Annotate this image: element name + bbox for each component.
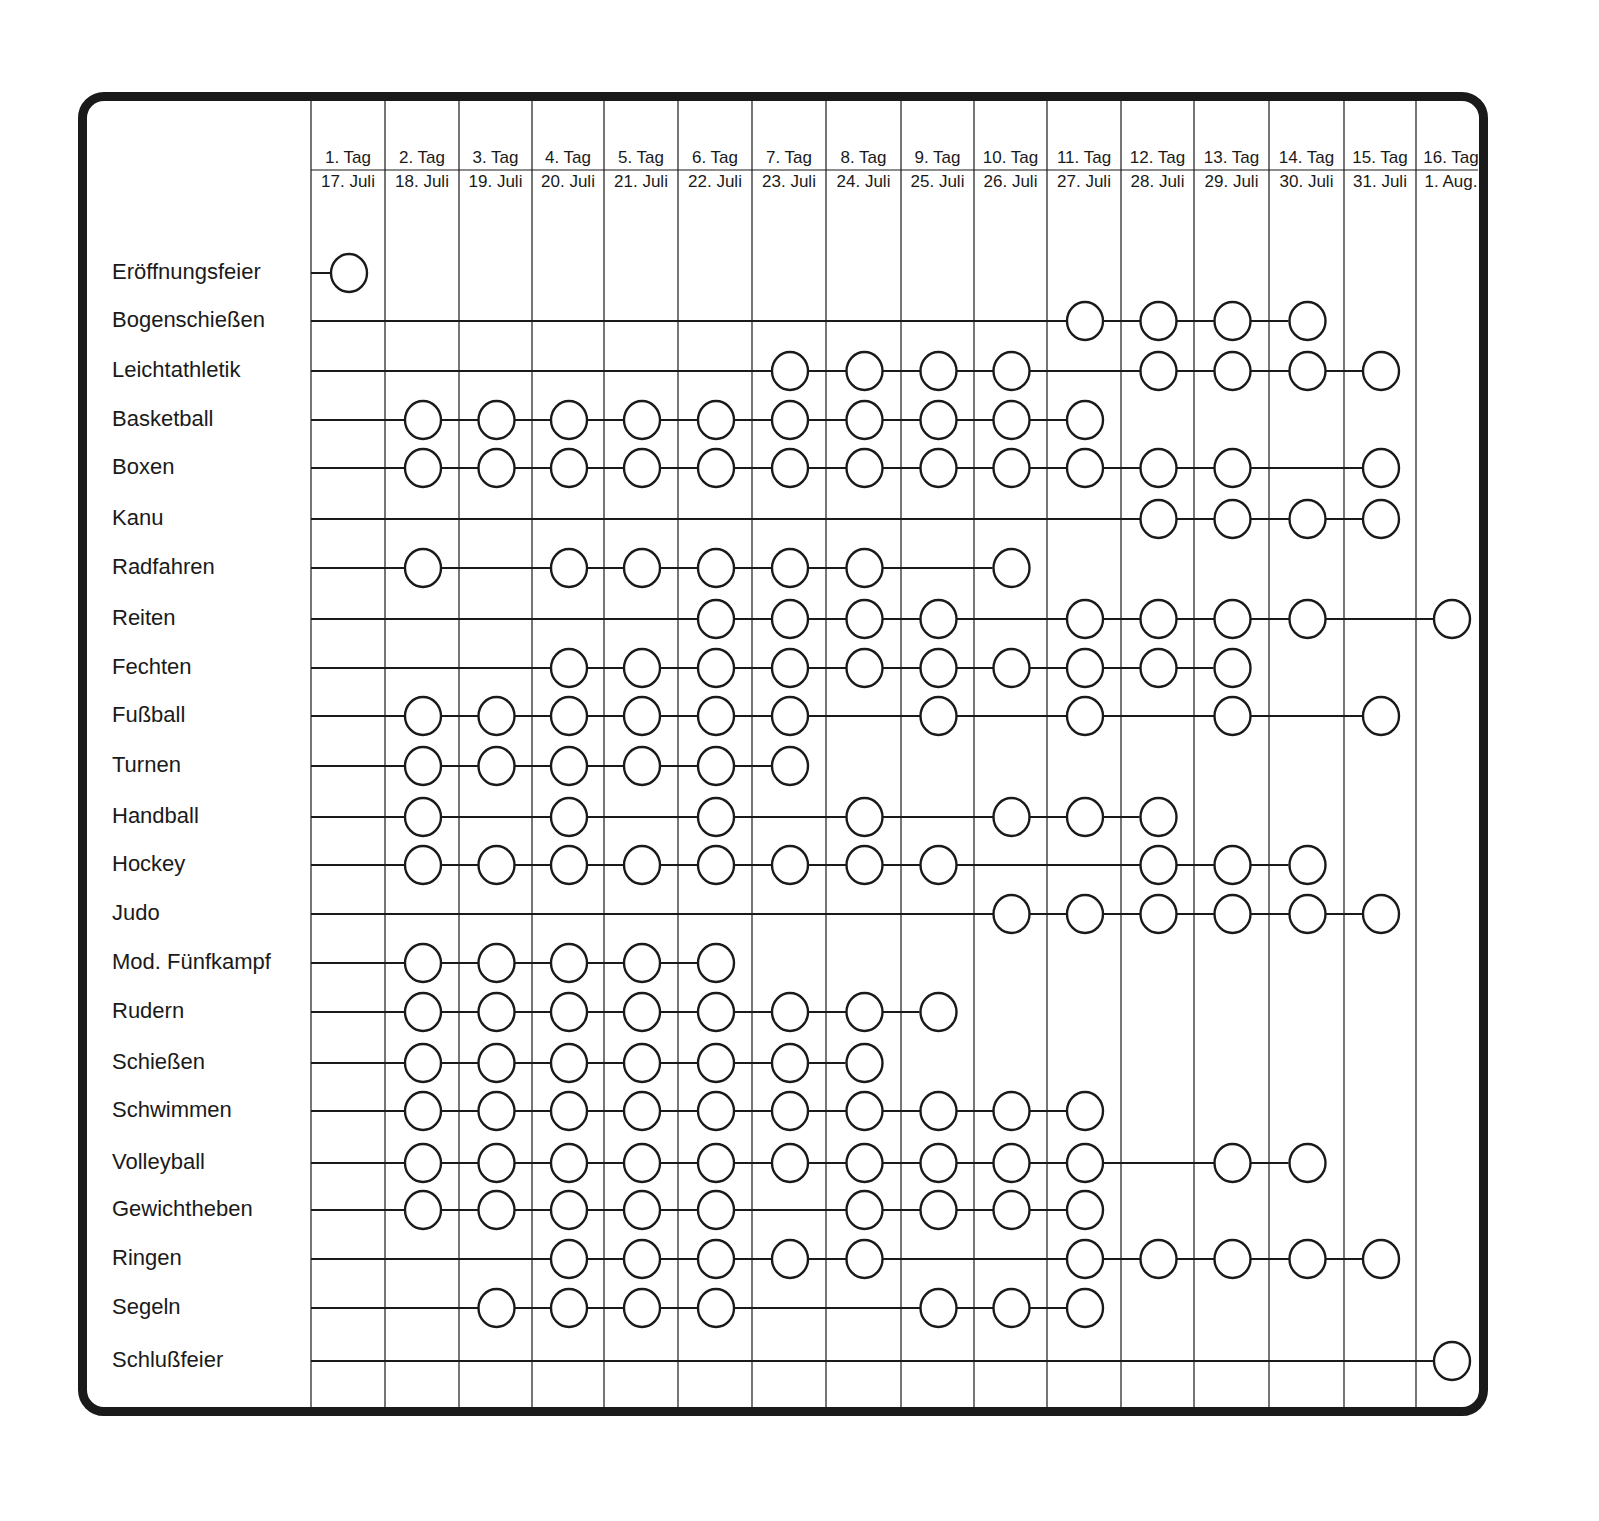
event-marker <box>921 697 957 735</box>
event-marker <box>479 993 515 1031</box>
event-marker <box>624 993 660 1031</box>
row-label: Basketball <box>112 406 214 432</box>
row-label: Radfahren <box>112 554 215 580</box>
event-marker <box>921 1092 957 1130</box>
event-marker <box>921 600 957 638</box>
event-marker <box>405 798 441 836</box>
event-marker <box>624 1092 660 1130</box>
event-marker <box>405 1092 441 1130</box>
event-marker <box>1290 352 1326 390</box>
event-marker <box>698 1240 734 1278</box>
column-date-label: 24. Juli <box>826 172 901 192</box>
event-marker <box>1215 449 1251 487</box>
event-marker <box>1067 1191 1103 1229</box>
event-marker <box>1067 1240 1103 1278</box>
column-date-label: 27. Juli <box>1047 172 1121 192</box>
column-date-label: 17. Juli <box>311 172 385 192</box>
event-marker <box>1067 649 1103 687</box>
event-marker <box>479 944 515 982</box>
event-marker <box>479 1144 515 1182</box>
event-marker <box>551 1191 587 1229</box>
event-marker <box>847 352 883 390</box>
event-marker <box>1067 302 1103 340</box>
event-marker <box>1290 846 1326 884</box>
event-marker <box>698 1191 734 1229</box>
event-marker <box>1290 1144 1326 1182</box>
event-marker <box>405 944 441 982</box>
event-marker <box>772 747 808 785</box>
event-marker <box>1067 895 1103 933</box>
event-marker <box>1215 1144 1251 1182</box>
schedule-grid <box>0 0 1599 1521</box>
event-marker <box>994 352 1030 390</box>
column-day-label: 11. Tag <box>1047 148 1121 168</box>
event-marker <box>772 401 808 439</box>
event-marker <box>1067 401 1103 439</box>
event-marker <box>994 1144 1030 1182</box>
event-marker <box>551 747 587 785</box>
event-marker <box>405 993 441 1031</box>
event-marker <box>1434 600 1470 638</box>
event-marker <box>1363 352 1399 390</box>
event-marker <box>479 449 515 487</box>
event-marker <box>1067 600 1103 638</box>
event-marker <box>624 549 660 587</box>
event-marker <box>405 449 441 487</box>
event-marker <box>994 649 1030 687</box>
event-marker <box>921 1144 957 1182</box>
event-marker <box>698 1092 734 1130</box>
event-marker <box>1215 895 1251 933</box>
event-marker <box>551 944 587 982</box>
column-day-label: 15. Tag <box>1344 148 1416 168</box>
event-marker <box>624 449 660 487</box>
event-marker <box>994 1092 1030 1130</box>
event-marker <box>1067 697 1103 735</box>
column-day-label: 14. Tag <box>1269 148 1344 168</box>
event-marker <box>405 846 441 884</box>
row-label: Volleyball <box>112 1149 205 1175</box>
event-marker <box>551 1044 587 1082</box>
column-date-label: 31. Juli <box>1344 172 1416 192</box>
row-label: Gewichtheben <box>112 1196 253 1222</box>
column-date-label: 18. Juli <box>385 172 459 192</box>
event-marker <box>772 1144 808 1182</box>
event-marker <box>1290 1240 1326 1278</box>
event-marker <box>847 1044 883 1082</box>
event-marker <box>551 401 587 439</box>
event-marker <box>405 697 441 735</box>
event-marker <box>1363 449 1399 487</box>
event-marker <box>698 549 734 587</box>
column-date-label: 29. Juli <box>1194 172 1269 192</box>
event-marker <box>479 1289 515 1327</box>
event-marker <box>1141 449 1177 487</box>
event-marker <box>624 697 660 735</box>
column-date-label: 1. Aug. <box>1416 172 1486 192</box>
event-marker <box>551 449 587 487</box>
row-label: Bogenschießen <box>112 307 265 333</box>
event-marker <box>405 549 441 587</box>
column-day-label: 2. Tag <box>385 148 459 168</box>
event-marker <box>624 846 660 884</box>
event-marker <box>698 747 734 785</box>
row-label: Eröffnungsfeier <box>112 259 261 285</box>
event-marker <box>405 401 441 439</box>
event-marker <box>847 1191 883 1229</box>
event-marker <box>698 649 734 687</box>
event-marker <box>921 401 957 439</box>
event-marker <box>1067 1289 1103 1327</box>
event-marker <box>847 1092 883 1130</box>
row-label: Schießen <box>112 1049 205 1075</box>
event-marker <box>772 1044 808 1082</box>
column-day-label: 8. Tag <box>826 148 901 168</box>
event-marker <box>994 798 1030 836</box>
event-marker <box>772 1240 808 1278</box>
event-marker <box>847 549 883 587</box>
event-marker <box>405 1044 441 1082</box>
column-date-label: 19. Juli <box>459 172 532 192</box>
event-marker <box>1141 302 1177 340</box>
event-marker <box>698 993 734 1031</box>
event-marker <box>772 1092 808 1130</box>
event-marker <box>921 846 957 884</box>
column-day-label: 1. Tag <box>311 148 385 168</box>
event-marker <box>1290 895 1326 933</box>
